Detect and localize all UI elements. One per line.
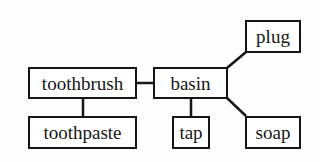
edge-basin-plug — [227, 52, 246, 68]
node-toothpaste: toothpaste — [28, 116, 137, 149]
node-label: basin — [170, 74, 210, 93]
edge-basin-soap — [227, 98, 246, 116]
node-label: toothpaste — [43, 123, 121, 142]
node-label: tap — [179, 123, 202, 142]
node-toothbrush: toothbrush — [28, 67, 137, 99]
node-soap: soap — [245, 116, 301, 149]
node-label: toothbrush — [42, 74, 123, 93]
node-tap: tap — [172, 116, 210, 149]
node-plug: plug — [245, 20, 301, 53]
node-label: plug — [256, 27, 290, 46]
node-basin: basin — [153, 67, 228, 99]
node-label: soap — [256, 123, 291, 142]
